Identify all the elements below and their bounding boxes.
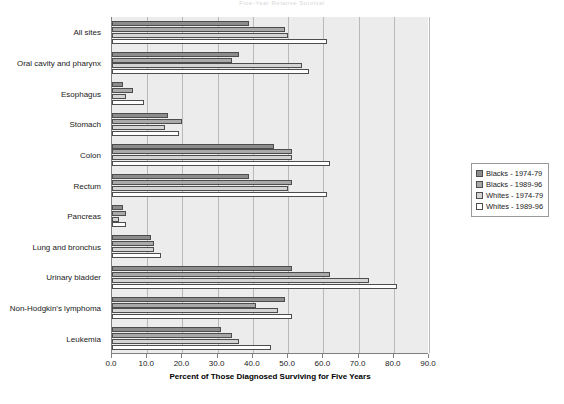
bar [112,266,292,271]
legend-swatch-icon [476,181,483,188]
gridline [359,17,360,353]
bar [112,297,285,302]
x-axis-tick-label: 70.0 [350,359,366,368]
bar [112,211,126,216]
bar [112,217,119,222]
gridline [323,17,324,353]
y-axis-label: Urinary bladder [46,273,101,282]
bar [112,69,309,74]
bar [112,94,126,99]
bar [112,327,221,332]
x-axis-tick-label: 10.0 [138,359,154,368]
y-axis-label: Leukemia [66,334,101,343]
x-axis-tick-mark [358,354,359,358]
bar [112,125,165,130]
x-axis-tick-label: 80.0 [385,359,401,368]
y-axis-label: Colon [80,150,101,159]
bar [112,155,292,160]
bar [112,241,154,246]
bar [112,27,285,32]
y-axis-label: Stomach [69,120,101,129]
chart-legend: Blacks - 1974-79Blacks - 1989-96Whites -… [471,163,549,217]
y-axis-label: Lung and bronchus [33,242,102,251]
x-axis-tick-label: 90.0 [420,359,436,368]
bar [112,284,397,289]
y-axis-label: Pancreas [67,212,101,221]
bar [112,345,271,350]
legend-item: Whites - 1974-79 [476,190,543,201]
bar [112,21,249,26]
x-axis-tick-mark [111,354,112,358]
x-axis-tick-mark [287,354,288,358]
y-axis-label: All sites [73,28,101,37]
x-axis-tick-mark [393,354,394,358]
bar [112,247,154,252]
legend-label: Blacks - 1974-79 [486,169,542,178]
legend-label: Whites - 1989-96 [486,202,543,211]
bar [112,222,126,227]
bar [112,174,249,179]
x-axis-tick-mark [217,354,218,358]
bar [112,119,182,124]
x-axis-tick-label: 20.0 [174,359,190,368]
chart-figure: Five-Year Relative Survival All sitesOra… [0,0,564,404]
bar [112,235,151,240]
bar [112,333,232,338]
bar [112,39,327,44]
x-axis-tick-label: 50.0 [279,359,295,368]
bar [112,58,232,63]
x-axis-tick-mark [322,354,323,358]
legend-swatch-icon [476,203,483,210]
x-axis-tick-mark [146,354,147,358]
x-axis-tick-mark [428,354,429,358]
x-axis-tick-label: 0.0 [105,359,116,368]
bar [112,314,292,319]
y-axis-label: Oral cavity and pharynx [17,58,101,67]
y-axis-label: Non-Hodgkin's lymphoma [10,304,101,313]
legend-item: Blacks - 1989-96 [476,179,543,190]
bar [112,272,330,277]
legend-item: Whites - 1989-96 [476,201,543,212]
x-axis-title: Percent of Those Diagnosed Surviving for… [111,372,429,381]
x-axis-tick-label: 30.0 [209,359,225,368]
bar [112,82,123,87]
legend-label: Blacks - 1989-96 [486,180,542,189]
bar [112,88,133,93]
bar [112,253,161,258]
bar [112,205,123,210]
y-axis-label: Rectum [73,181,101,190]
bar [112,303,256,308]
x-axis-tick-label: 60.0 [315,359,331,368]
x-axis-tick-mark [181,354,182,358]
x-axis-tick-mark [252,354,253,358]
legend-swatch-icon [476,170,483,177]
bar [112,161,330,166]
bar [112,149,292,154]
plot-area [111,17,428,354]
bar [112,100,144,105]
x-axis-ticks: 0.010.020.030.040.050.060.070.080.090.0 [111,354,429,370]
x-axis-tick-label: 40.0 [244,359,260,368]
plot-area-wrapper [111,17,428,354]
bar [112,186,288,191]
gridline [394,17,395,353]
y-axis-category-labels: All sitesOral cavity and pharynxEsophagu… [0,17,107,354]
bar [112,52,239,57]
bar [112,192,327,197]
bar [112,63,302,68]
legend-label: Whites - 1974-79 [486,191,543,200]
bar [112,180,292,185]
bar [112,33,288,38]
bar [112,113,168,118]
bar [112,339,239,344]
legend-swatch-icon [476,192,483,199]
y-axis-label: Esophagus [61,89,101,98]
legend-item: Blacks - 1974-79 [476,168,543,179]
gridline [429,17,430,353]
bar [112,308,278,313]
bar [112,144,274,149]
bar [112,131,179,136]
figure-title: Five-Year Relative Survival [0,0,564,7]
bar [112,278,369,283]
